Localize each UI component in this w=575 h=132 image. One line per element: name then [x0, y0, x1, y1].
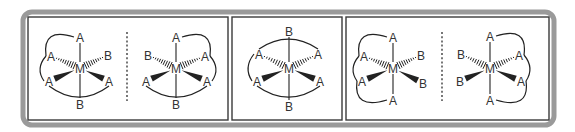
ligand-label-bottom: B — [172, 98, 180, 112]
ligand-label-lower-right: A — [105, 75, 113, 89]
ligand-label-top: A — [76, 31, 84, 45]
panel-3: MAABABAMABABAA — [346, 17, 549, 120]
ligand-label-lower-right: A — [316, 75, 324, 89]
panel-border — [28, 17, 228, 120]
ligand-label-top: B — [285, 25, 293, 39]
ligand-label-upper-left: B — [144, 49, 152, 63]
ligand-label-bottom: A — [389, 94, 397, 108]
metal-center-label: M — [75, 62, 85, 76]
ligand-label-bottom: B — [285, 100, 293, 114]
panel-border — [346, 17, 549, 120]
ligand-label-bottom: A — [486, 94, 494, 108]
ligand-label-upper-left: B — [457, 48, 465, 62]
ligand-label-bottom: B — [76, 98, 84, 112]
metal-center-label: M — [388, 62, 398, 76]
metal-center-label: M — [485, 62, 495, 76]
ligand-label-upper-right: A — [314, 48, 322, 62]
ligand-label-lower-left: A — [253, 75, 261, 89]
ligand-label-lower-right: A — [517, 75, 525, 89]
ligand-label-lower-left: A — [45, 75, 53, 89]
panel-2: MBAAAAB — [232, 17, 342, 120]
ligand-label-upper-right: A — [201, 50, 209, 64]
ligand-label-lower-left: A — [358, 75, 366, 89]
ligand-label-lower-right: A — [203, 75, 211, 89]
octahedral-isomers-figure: MAABAABMABAAABMBAAAABMAABABAMABABAA — [0, 0, 575, 132]
ligand-label-lower-left: B — [456, 75, 464, 89]
ligand-label-lower-left: A — [142, 75, 150, 89]
ligand-label-upper-left: A — [47, 50, 55, 64]
ligand-label-upper-right: A — [515, 49, 523, 63]
ligand-label-upper-left: A — [255, 48, 263, 62]
metal-center-label: M — [284, 62, 294, 76]
panel-1: MAABAABMABAAAB — [28, 17, 228, 120]
ligand-label-top: A — [486, 30, 494, 44]
ligand-label-lower-right: B — [419, 77, 427, 91]
ligand-label-top: A — [389, 31, 397, 45]
diagram-canvas: MAABAABMABAAABMBAAAABMAABABAMABABAA — [0, 0, 575, 132]
ligand-label-upper-right: B — [417, 49, 425, 63]
panels-group: MAABAABMABAAABMBAAAABMAABABAMABABAA — [28, 17, 549, 120]
metal-center-label: M — [171, 62, 181, 76]
ligand-label-upper-right: B — [104, 49, 112, 63]
ligand-label-upper-left: A — [360, 50, 368, 64]
ligand-label-top: A — [172, 31, 180, 45]
